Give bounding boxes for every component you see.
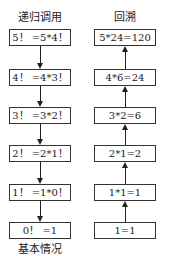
backtrack-title: 回溯 [94, 8, 156, 24]
return-box-0: 1=1 [94, 222, 156, 239]
return-box-3: 3*2=6 [94, 107, 156, 124]
arrow-down-icon [37, 216, 43, 222]
arrow-down-icon [37, 139, 43, 145]
arrow-down-icon [37, 101, 43, 107]
call-box-3: 3！ =3*2！ [9, 107, 71, 124]
call-box-5: 5！ =5*4！ [9, 29, 71, 46]
arrow-line [40, 201, 41, 216]
arrow-line [125, 207, 126, 222]
call-box-1: 1！ =1*0！ [9, 184, 71, 201]
arrow-line [40, 124, 41, 139]
recursive-call-title: 递归调用 [9, 8, 71, 24]
call-box-2: 2！ =2*1！ [9, 145, 71, 162]
arrow-line [125, 92, 126, 107]
return-box-5: 5*24=120 [94, 29, 156, 46]
arrow-line [40, 46, 41, 63]
arrow-line [40, 86, 41, 101]
call-box-0: 0！ =1 [9, 222, 71, 239]
arrow-down-icon [37, 178, 43, 184]
base-case-caption: 基本情况 [9, 240, 71, 256]
return-box-2: 2*1=2 [94, 145, 156, 162]
arrow-line [125, 130, 126, 145]
arrow-line [40, 162, 41, 178]
return-box-4: 4*6=24 [94, 69, 156, 86]
arrow-line [125, 52, 126, 69]
return-box-1: 1*1=1 [94, 184, 156, 201]
arrow-down-icon [37, 63, 43, 69]
arrow-line [125, 168, 126, 184]
call-box-4: 4！ =4*3！ [9, 69, 71, 86]
